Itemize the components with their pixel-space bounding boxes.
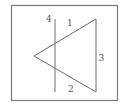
segment-4-label: 4 xyxy=(46,14,52,24)
segment-2-label: 2 xyxy=(68,84,74,94)
diagram-canvas: 1 2 3 4 xyxy=(0,0,122,109)
segment-1 xyxy=(34,19,96,56)
segment-1-label: 1 xyxy=(67,18,73,28)
segment-2 xyxy=(34,56,96,92)
segment-3-label: 3 xyxy=(99,53,105,63)
